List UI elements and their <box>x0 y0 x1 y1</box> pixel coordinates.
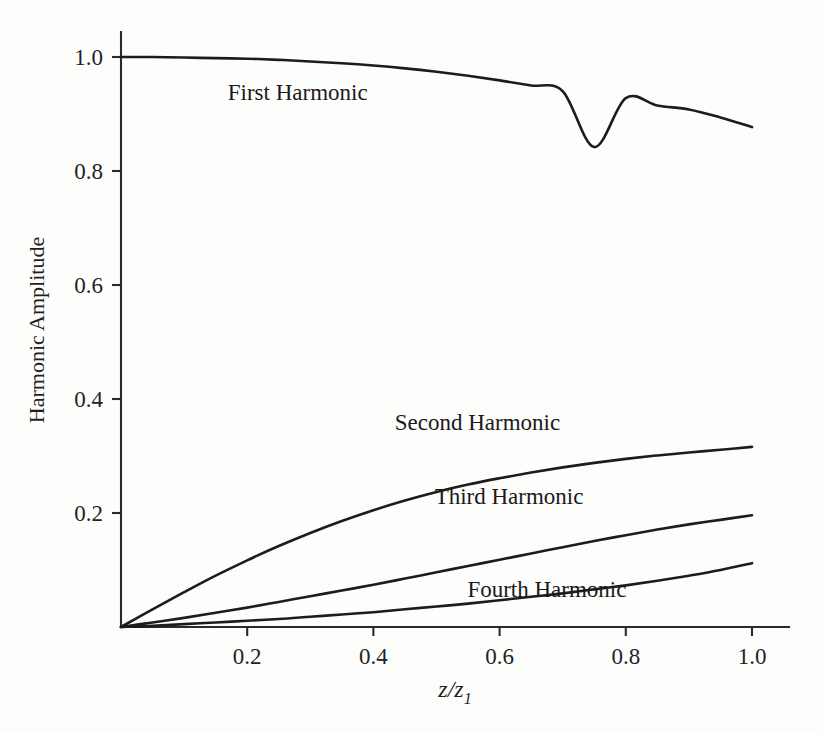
chart-figure: 0.20.40.60.81.0 0.20.40.60.81.0 First Ha… <box>0 0 823 731</box>
curve-second-harmonic <box>121 447 752 627</box>
x-tick-label: 0.4 <box>359 644 388 669</box>
y-tick-label: 1.0 <box>74 45 103 70</box>
curve-label-second-harmonic: Second Harmonic <box>395 410 560 435</box>
x-axis-title-base: z/z <box>437 676 464 702</box>
x-axis-title: z/z1 <box>437 676 471 707</box>
curve-label-first-harmonic: First Harmonic <box>228 80 368 105</box>
x-tick-label: 0.6 <box>485 644 514 669</box>
y-tick-label: 0.2 <box>74 501 103 526</box>
x-tick-label: 0.2 <box>233 644 262 669</box>
y-axis-title: Harmonic Amplitude <box>24 237 49 423</box>
harmonic-amplitude-chart: 0.20.40.60.81.0 0.20.40.60.81.0 First Ha… <box>0 0 823 731</box>
y-tick-label: 0.4 <box>74 387 103 412</box>
curve-first-harmonic <box>121 57 752 147</box>
y-tick-label: 0.8 <box>74 159 103 184</box>
y-tick-label: 0.6 <box>74 273 103 298</box>
x-tick-label: 0.8 <box>611 644 640 669</box>
x-tick-label: 1.0 <box>738 644 767 669</box>
axes-group <box>121 32 789 627</box>
data-curves <box>121 57 752 627</box>
curve-annotations: First HarmonicSecond HarmonicThird Harmo… <box>228 80 627 603</box>
curve-label-fourth-harmonic: Fourth Harmonic <box>467 577 626 602</box>
x-axis-ticks: 0.20.40.60.81.0 <box>233 627 767 669</box>
curve-label-third-harmonic: Third Harmonic <box>435 484 584 509</box>
y-axis-ticks: 0.20.40.60.81.0 <box>74 45 121 526</box>
x-axis-title-subscript: 1 <box>464 690 472 707</box>
curve-third-harmonic <box>121 515 752 627</box>
